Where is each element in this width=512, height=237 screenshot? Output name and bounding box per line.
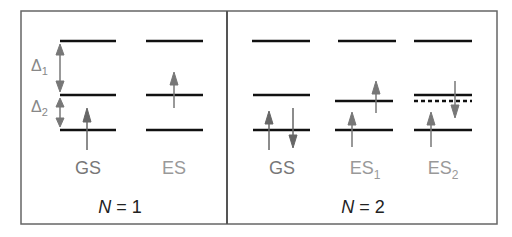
n2-es2-spin-down-arrow: [451, 81, 459, 118]
delta2-double-arrow: [56, 98, 64, 127]
delta1-double-arrow: [56, 44, 64, 92]
n2-title: N = 2: [333, 197, 393, 218]
energy-level-diagram: [0, 0, 512, 237]
outer-frame: [21, 11, 497, 224]
n2-gs-label: GS: [260, 158, 304, 179]
n2-es2-levels: [414, 41, 472, 130]
delta1-label: Δ1: [31, 57, 48, 77]
n2-es1-spin-up-arrow-high: [372, 81, 380, 113]
n1-es-label: ES: [152, 158, 196, 179]
n2-es2-label: ES2: [418, 158, 468, 182]
n2-gs-levels: [252, 41, 310, 130]
delta2-label: Δ2: [31, 98, 48, 118]
n1-es-spin-up-arrow: [170, 72, 178, 108]
n1-gs-label: GS: [66, 158, 110, 179]
n2-gs-spin-down-arrow: [289, 108, 297, 148]
n2-es1-label: ES1: [340, 158, 390, 182]
n1-title: N = 1: [90, 197, 150, 218]
n2-es1-levels: [335, 41, 396, 130]
